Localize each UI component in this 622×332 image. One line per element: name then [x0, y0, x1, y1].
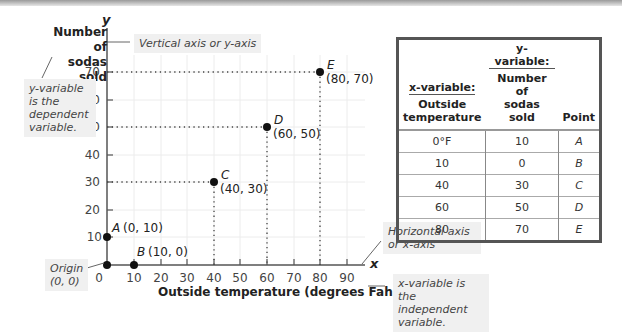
origin-note-line: Origin	[50, 262, 83, 275]
cell-point: D	[559, 197, 601, 219]
point-a-coord: (0, 10)	[123, 221, 163, 235]
origin-note-line: (0, 0)	[50, 275, 83, 288]
table-row: 0°F 10 A	[398, 130, 601, 153]
point-b	[130, 261, 138, 269]
point-c-coord: (40, 30)	[220, 182, 268, 196]
x-tick-50: 50	[232, 271, 247, 285]
y-var-note-line: variable.	[29, 121, 91, 134]
y-tick-30: 30	[85, 175, 100, 189]
x-variable-note: x-variable is the independent variable.	[393, 274, 489, 332]
table-row: 60 50 D	[398, 197, 601, 219]
cell-point: A	[559, 130, 601, 153]
x-tick-80: 80	[312, 271, 327, 285]
header-line: Number of	[497, 72, 546, 98]
point-d-coord: (60, 50)	[273, 127, 321, 141]
cell-sodas: 30	[485, 175, 558, 197]
origin-point	[103, 261, 111, 269]
y-tick-20: 20	[85, 203, 100, 217]
cell-temperature: 60	[398, 197, 486, 219]
x-tick-30: 30	[179, 271, 194, 285]
header-top: x-variable:	[409, 81, 475, 95]
header-line: Point	[563, 111, 595, 124]
header-line: Outside	[418, 98, 466, 111]
x-tick-20: 20	[153, 271, 168, 285]
y-axis-title: Number of sodas sold	[45, 25, 107, 85]
x-tick-70: 70	[286, 271, 301, 285]
header-line: sodas sold	[504, 98, 540, 124]
cell-temperature: 10	[398, 153, 486, 175]
point-c	[210, 178, 218, 186]
cell-temperature: 80	[398, 219, 486, 242]
table-header-row: x-variable: Outside temperature y-variab…	[398, 39, 601, 131]
cell-sodas: 70	[485, 219, 558, 242]
point-b-coord: (10, 0)	[148, 245, 188, 259]
point-d-letter: D	[274, 113, 283, 127]
x-tick-10: 10	[126, 271, 141, 285]
x-var-note-line: variable.	[398, 316, 484, 329]
cell-sodas: 10	[485, 130, 558, 153]
y-var-note-line: is the	[29, 95, 91, 108]
point-c-letter: C	[221, 168, 230, 182]
point-b-letter: B	[137, 245, 145, 259]
cell-point: C	[559, 175, 601, 197]
point-e	[316, 68, 324, 76]
point-d	[263, 123, 271, 131]
cell-sodas: 50	[485, 197, 558, 219]
y-tick-10: 10	[87, 230, 102, 244]
x-tick-90: 90	[339, 271, 354, 285]
x-var-note-line: the independent	[398, 290, 484, 316]
x-tick-40: 40	[206, 271, 221, 285]
x-var-note-line: x-variable is	[398, 277, 484, 290]
origin-note: Origin (0, 0)	[45, 259, 88, 291]
point-a-letter: A	[111, 221, 120, 235]
table-row: 40 30 C	[398, 175, 601, 197]
vertical-axis-note: Vertical axis or y-axis	[134, 34, 261, 53]
header-point: Point	[559, 39, 601, 131]
x-axis-letter: x	[369, 256, 379, 271]
y-var-note-line: dependent	[29, 108, 91, 121]
table-row: 10 0 B	[398, 153, 601, 175]
y-tick-40: 40	[85, 148, 100, 162]
y-var-note-line: y-variable	[29, 82, 91, 95]
cell-sodas: 0	[485, 153, 558, 175]
data-table: x-variable: Outside temperature y-variab…	[396, 37, 602, 243]
cell-point: B	[559, 153, 601, 175]
point-e-coord: (80, 70)	[326, 72, 374, 86]
table-row: 80 70 E	[398, 219, 601, 242]
header-x-variable: x-variable: Outside temperature	[398, 39, 486, 131]
cell-temperature: 0°F	[398, 130, 486, 153]
header-y-variable: y-variable: Number of sodas sold	[485, 39, 558, 131]
y-variable-note: y-variable is the dependent variable.	[24, 79, 96, 137]
y-title-line1: Number of	[45, 25, 107, 55]
x-tick-0: 0	[95, 271, 103, 285]
x-tick-60: 60	[259, 271, 274, 285]
point-e-letter: E	[327, 58, 335, 72]
point-a	[103, 233, 111, 241]
header-line: temperature	[403, 111, 481, 124]
header-top: y-variable:	[489, 42, 554, 69]
cell-temperature: 40	[398, 175, 486, 197]
cell-point: E	[559, 219, 601, 242]
